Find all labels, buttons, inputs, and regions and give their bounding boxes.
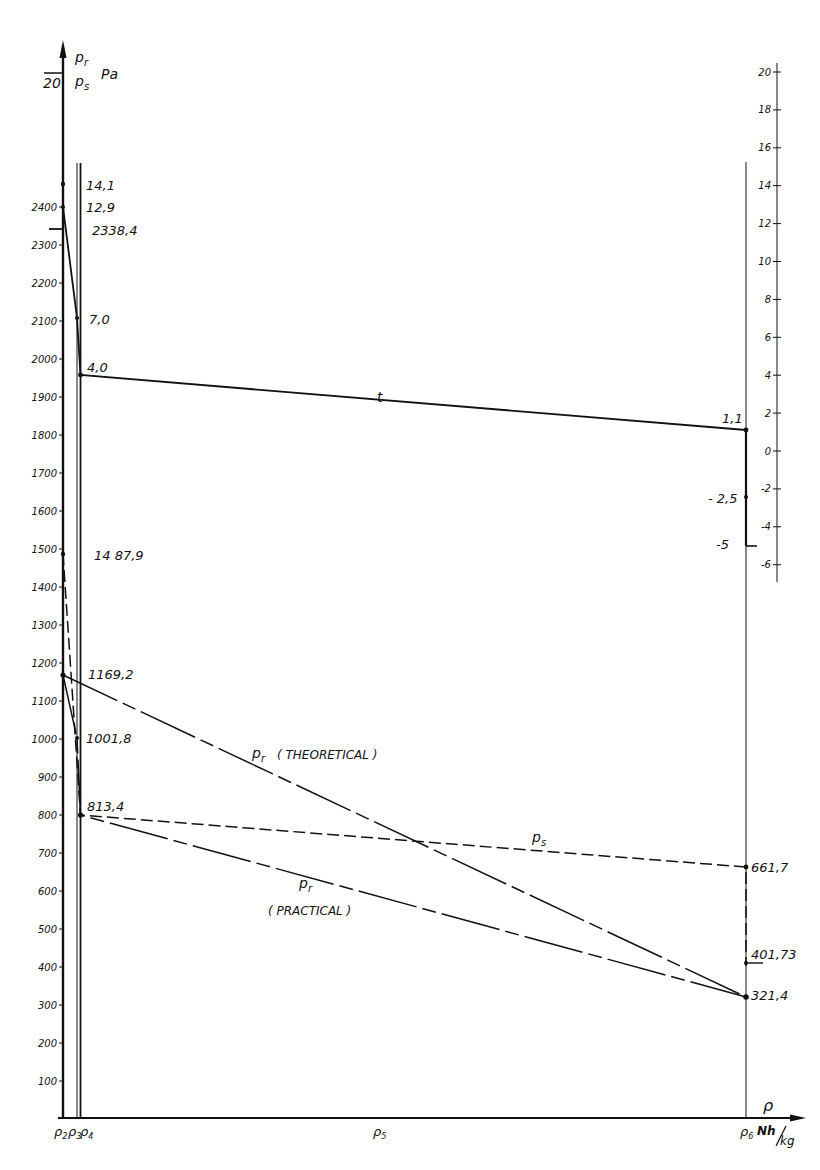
right-axis-tick-labels: 20181614121086420-2-4-6 bbox=[758, 67, 771, 571]
right-tick-label: 20 bbox=[758, 67, 771, 78]
right-tick-label: 18 bbox=[758, 104, 771, 115]
series-label-ps: ps bbox=[531, 829, 546, 848]
value-1-1: 1,1 bbox=[722, 411, 743, 426]
x-tick-rho4: ρ4 bbox=[80, 1124, 93, 1141]
value-7-0: 7,0 bbox=[89, 312, 110, 327]
psychrometric-chart: 1002003004005006007008009001000110012001… bbox=[0, 0, 820, 1170]
series-pr-theoretical bbox=[63, 675, 746, 997]
left-tick-label: 1100 bbox=[32, 696, 57, 707]
left-tick-label: 1000 bbox=[32, 734, 57, 745]
value-321-4: 321,4 bbox=[751, 988, 788, 1003]
left-tick-label: 2400 bbox=[32, 202, 57, 213]
series-t bbox=[63, 184, 757, 546]
left-tick-label: 2200 bbox=[32, 278, 57, 289]
value-12-9: 12,9 bbox=[86, 200, 115, 215]
x-axis-unit-denominator: kg bbox=[780, 1134, 795, 1148]
left-tick-label: 2100 bbox=[32, 316, 57, 327]
left-tick-label: 1700 bbox=[32, 468, 57, 479]
x-tick-rho6: ρ6 bbox=[740, 1124, 753, 1141]
right-tick-label: -4 bbox=[761, 521, 771, 532]
left-tick-label: 900 bbox=[38, 772, 57, 783]
axis-unit-pa: Pa bbox=[101, 66, 118, 82]
left-tick-label: 300 bbox=[38, 1000, 57, 1011]
right-tick-label: 6 bbox=[765, 332, 771, 343]
right-tick-label: 10 bbox=[758, 256, 771, 267]
series-label-practical: ( PRACTICAL ) bbox=[268, 904, 351, 918]
axis-label-pr: pr bbox=[74, 49, 89, 68]
value-minus-5: -5 bbox=[716, 537, 729, 552]
left-tick-label: 700 bbox=[38, 848, 57, 859]
right-tick-label: -2 bbox=[761, 483, 771, 494]
left-tick-label: 1500 bbox=[32, 544, 57, 555]
x-tick-rho2: ρ2 bbox=[54, 1124, 67, 1141]
x-axis-unit-numerator: Nh bbox=[757, 1124, 776, 1138]
x-axis bbox=[58, 1115, 806, 1122]
value-4-0: 4,0 bbox=[87, 360, 108, 375]
left-tick-label: 200 bbox=[38, 1038, 57, 1049]
right-tick-label: 16 bbox=[758, 142, 771, 153]
right-tick-label: 2 bbox=[765, 408, 771, 419]
value-813-4: 813,4 bbox=[87, 799, 124, 814]
series-label-theoretical: ( THEORETICAL ) bbox=[277, 748, 377, 762]
series-ps bbox=[63, 230, 746, 966]
left-tick-label: 1200 bbox=[32, 658, 57, 669]
axis-mark-20: 20 bbox=[43, 75, 61, 91]
value-1001-8: 1001,8 bbox=[86, 731, 132, 746]
left-tick-label: 2300 bbox=[32, 240, 57, 251]
left-tick-label: 1300 bbox=[32, 620, 57, 631]
right-tick-label: 8 bbox=[765, 294, 771, 305]
value-minus-2-5: - 2,5 bbox=[708, 491, 738, 506]
series-label-t: t bbox=[377, 389, 383, 405]
left-tick-label: 100 bbox=[38, 1076, 57, 1087]
series-label-pr-theoretical: pr bbox=[251, 745, 266, 764]
x-tick-rho5: ρ5 bbox=[373, 1124, 386, 1141]
left-tick-label: 500 bbox=[38, 924, 57, 935]
left-tick-label: 800 bbox=[38, 810, 57, 821]
right-tick-label: -6 bbox=[761, 559, 771, 570]
data-point-markers bbox=[60, 182, 763, 1000]
axis-label-ps: ps bbox=[74, 73, 89, 92]
right-tick-label: 12 bbox=[758, 218, 771, 229]
value-1169-2: 1169,2 bbox=[88, 667, 134, 682]
value-1487-9: 14 87,9 bbox=[94, 548, 144, 563]
value-2338-4: 2338,4 bbox=[92, 223, 138, 238]
left-tick-label: 1600 bbox=[32, 506, 57, 517]
value-401-73: 401,73 bbox=[751, 947, 797, 962]
right-tick-label: 0 bbox=[765, 446, 771, 457]
value-14-1: 14,1 bbox=[86, 178, 115, 193]
left-tick-label: 1400 bbox=[32, 582, 57, 593]
left-axis-tick-labels: 1002003004005006007008009001000110012001… bbox=[32, 202, 57, 1087]
x-axis-label-rho: ρ bbox=[763, 1096, 773, 1115]
value-661-7: 661,7 bbox=[751, 860, 789, 875]
left-tick-label: 600 bbox=[38, 886, 57, 897]
right-tick-label: 14 bbox=[758, 180, 771, 191]
right-tick-label: 4 bbox=[765, 370, 771, 381]
left-tick-label: 1900 bbox=[32, 392, 57, 403]
left-tick-label: 400 bbox=[38, 962, 57, 973]
rho-vertical-lines bbox=[77, 162, 746, 1119]
left-tick-label: 2000 bbox=[32, 354, 57, 365]
left-tick-label: 1800 bbox=[32, 430, 57, 441]
